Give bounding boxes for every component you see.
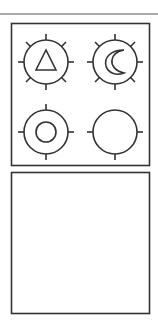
empty-panel: [12, 173, 150, 314]
diagram-canvas: [0, 0, 158, 320]
sun-with-crescent-icon: [87, 34, 143, 90]
sun-with-triangle-icon: [18, 34, 74, 90]
empty-circle-icon: [87, 110, 143, 160]
sun-with-circle-icon: [18, 104, 74, 160]
